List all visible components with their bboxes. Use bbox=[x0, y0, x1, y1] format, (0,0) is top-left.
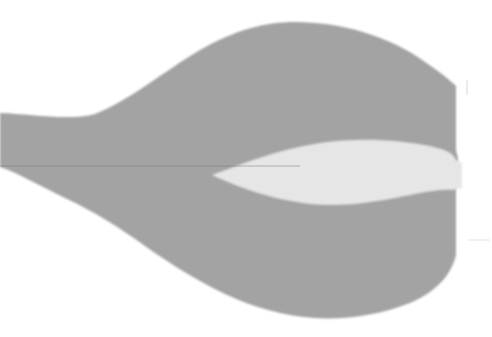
figure-canvas bbox=[0, 0, 492, 337]
silhouette-figure bbox=[0, 0, 492, 337]
